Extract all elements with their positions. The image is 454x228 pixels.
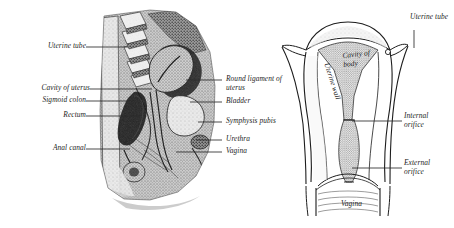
label-rectum: Rectum bbox=[0, 111, 86, 120]
label-sigmoid-colon: Sigmoid colon bbox=[0, 96, 86, 105]
label-round-ligament-of-uterus: Round ligament of uterus bbox=[226, 75, 288, 92]
label-external-orifice: External orifice bbox=[404, 159, 448, 176]
sagittal-section-drawing bbox=[96, 6, 222, 210]
label-uterine-tube-coronal: Uterine tube bbox=[410, 13, 450, 22]
label-vagina-sagittal: Vagina bbox=[226, 147, 247, 156]
label-symphysis-pubis: Symphysis pubis bbox=[226, 117, 276, 126]
label-internal-orifice: Internal orifice bbox=[404, 112, 448, 129]
label-bladder: Bladder bbox=[226, 97, 250, 106]
label-uterine-tube-left: Uterine tube bbox=[8, 42, 86, 51]
coronal-uterus-drawing bbox=[282, 20, 408, 216]
label-cavity-of-uterus: Cavity of uterus bbox=[0, 84, 90, 93]
label-urethra: Urethra bbox=[226, 135, 250, 144]
label-anal-canal: Anal canal bbox=[0, 144, 86, 153]
label-vagina-coronal: Vagina bbox=[341, 200, 362, 209]
